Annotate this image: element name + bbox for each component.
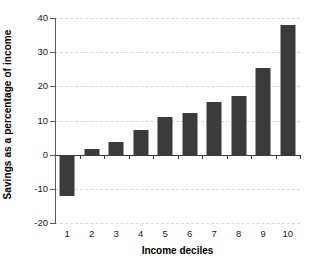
y-tick-label: -20 bbox=[22, 218, 48, 228]
x-axis-title: Income deciles bbox=[55, 245, 300, 256]
bar bbox=[280, 25, 295, 155]
bar-slot bbox=[129, 18, 154, 223]
bar-slot bbox=[104, 18, 129, 223]
bar-slot bbox=[153, 18, 178, 223]
bar bbox=[256, 68, 271, 155]
y-tick-mark bbox=[50, 86, 55, 87]
bar-slot bbox=[55, 18, 80, 223]
x-tick-mark bbox=[202, 155, 203, 159]
x-tick-mark bbox=[104, 155, 105, 159]
x-tick-label: 9 bbox=[261, 228, 266, 240]
gridline bbox=[55, 223, 300, 224]
x-tick-mark bbox=[80, 155, 81, 159]
y-tick-label: -10 bbox=[22, 184, 48, 194]
y-axis-line bbox=[55, 18, 56, 224]
bar-slot bbox=[202, 18, 227, 223]
plot-area bbox=[55, 18, 300, 223]
y-tick-mark bbox=[50, 223, 55, 224]
x-tick-label: 2 bbox=[89, 228, 94, 240]
x-tick-mark bbox=[300, 155, 301, 159]
y-tick-mark bbox=[50, 189, 55, 190]
bar bbox=[207, 102, 222, 155]
x-tick-label: 8 bbox=[236, 228, 241, 240]
bar bbox=[60, 155, 75, 196]
x-tick-mark bbox=[251, 155, 252, 159]
bar-slot bbox=[276, 18, 301, 223]
bar bbox=[182, 113, 197, 155]
bar bbox=[158, 117, 173, 155]
x-tick-label: 3 bbox=[114, 228, 119, 240]
y-tick-mark bbox=[50, 18, 55, 19]
x-axis-tick-labels: 12345678910 bbox=[55, 228, 300, 240]
x-tick-label: 5 bbox=[163, 228, 168, 240]
bar-series bbox=[55, 18, 300, 223]
x-tick-mark bbox=[227, 155, 228, 159]
y-tick-label: 10 bbox=[22, 116, 48, 126]
y-tick-label: 20 bbox=[22, 81, 48, 91]
x-tick-label: 7 bbox=[212, 228, 217, 240]
x-tick-label: 1 bbox=[65, 228, 70, 240]
x-tick-mark bbox=[153, 155, 154, 159]
bar-slot bbox=[227, 18, 252, 223]
y-tick-mark bbox=[50, 121, 55, 122]
y-tick-mark bbox=[50, 155, 55, 156]
bar-slot bbox=[178, 18, 203, 223]
x-tick-mark bbox=[276, 155, 277, 159]
bar bbox=[231, 96, 246, 155]
y-tick-label: 30 bbox=[22, 47, 48, 57]
x-tick-label: 4 bbox=[138, 228, 143, 240]
x-tick-label: 10 bbox=[282, 228, 293, 240]
bar bbox=[133, 130, 148, 155]
x-tick-mark bbox=[129, 155, 130, 159]
bar-slot bbox=[251, 18, 276, 223]
y-axis-tick-labels: 403020100-10-20 bbox=[22, 0, 48, 268]
bar-chart-figure: Savings as a percentage of income 403020… bbox=[0, 0, 313, 268]
bar bbox=[109, 142, 124, 155]
y-axis-title: Savings as a percentage of income bbox=[0, 7, 16, 222]
y-tick-label: 40 bbox=[22, 13, 48, 23]
x-tick-mark bbox=[178, 155, 179, 159]
bar-slot bbox=[80, 18, 105, 223]
y-tick-label: 0 bbox=[22, 150, 48, 160]
y-tick-mark bbox=[50, 52, 55, 53]
x-tick-label: 6 bbox=[187, 228, 192, 240]
